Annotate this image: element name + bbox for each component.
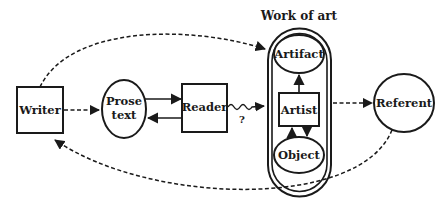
edge-writer-to-work-of-art (40, 34, 265, 87)
referent-label: Referent (376, 96, 433, 110)
prose-label-line2: text (112, 108, 137, 122)
edge-reader-to-work-of-art (228, 105, 264, 110)
node-writer: Writer (17, 87, 63, 133)
node-object: Object (274, 137, 324, 173)
work-of-art-title: Work of art (260, 9, 338, 23)
question-mark-label: ? (239, 114, 245, 125)
reader-label: Reader (182, 100, 229, 114)
artist-label: Artist (280, 103, 318, 117)
writer-label: Writer (18, 103, 61, 117)
node-artifact: Artifact (273, 35, 324, 73)
object-label: Object (278, 148, 321, 162)
node-reader: Reader (182, 84, 229, 132)
diagram-canvas: Work of art Writer Prose text Reader ? A… (0, 0, 439, 209)
prose-label-line1: Prose (106, 94, 142, 108)
artifact-label: Artifact (273, 47, 324, 61)
node-referent: Referent (374, 74, 434, 132)
edge-referent-to-writer (55, 130, 392, 189)
node-prose-text: Prose text (102, 80, 146, 138)
node-artist: Artist (279, 93, 319, 126)
